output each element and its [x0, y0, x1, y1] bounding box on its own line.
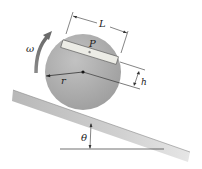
plate-label: P	[88, 38, 96, 49]
angle-label: θ	[81, 132, 87, 143]
height-label: h	[141, 77, 147, 87]
diagram-canvas: ω L P r h θ	[0, 0, 202, 169]
omega-label: ω	[26, 43, 34, 54]
length-label: L	[98, 18, 106, 29]
disk-on-incline-diagram: ω L P r h θ	[0, 0, 202, 169]
